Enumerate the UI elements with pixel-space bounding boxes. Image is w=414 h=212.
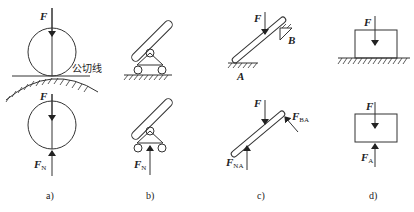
- point-label-a: A: [236, 70, 244, 82]
- roller-left: [134, 66, 142, 74]
- force-label-f: F: [363, 16, 372, 28]
- panel-a-top-disk: F 公切线: [6, 8, 102, 102]
- point-label-b: B: [287, 34, 295, 46]
- panel-c: F A B F FBA FNA c): [225, 12, 309, 202]
- force-label-f: F: [253, 12, 262, 24]
- force-label-f: F: [253, 97, 262, 109]
- force-label-f: F: [39, 10, 48, 22]
- force-label-fba: FBA: [291, 110, 309, 124]
- force-label-f: F: [365, 100, 374, 112]
- caption-c: c): [257, 190, 265, 202]
- caption-a: a): [46, 190, 54, 202]
- panel-d-bottom-fbd: F FA: [355, 100, 397, 167]
- panel-c-bottom-fbd: F FBA FNA: [225, 97, 309, 170]
- force-label-fn: FN: [33, 158, 46, 172]
- block: [355, 114, 397, 142]
- inclined-bar: [230, 110, 286, 158]
- panel-a: F 公切线 F FN a): [6, 8, 102, 202]
- force-label-fn: FN: [133, 158, 146, 172]
- tangent-label: 公切线: [72, 62, 102, 74]
- mechanics-diagram: F 公切线 F FN a): [0, 0, 414, 212]
- caption-b: b): [146, 190, 154, 202]
- roller-right: [158, 66, 166, 74]
- panel-b-bottom-fbd: FN: [130, 97, 174, 175]
- panel-d-top: F: [338, 16, 410, 64]
- panel-d: F F FA d): [338, 16, 410, 202]
- panel-c-top: F A B: [228, 12, 295, 82]
- block: [355, 30, 397, 58]
- panel-b-top: [124, 19, 174, 80]
- panel-b: FN b): [124, 19, 174, 202]
- force-label-fna: FNA: [225, 156, 243, 170]
- force-label-fa: FA: [360, 151, 373, 165]
- caption-d: d): [369, 190, 377, 202]
- force-label-f: F: [39, 90, 48, 102]
- panel-a-bottom-fbd: F FN: [28, 90, 76, 176]
